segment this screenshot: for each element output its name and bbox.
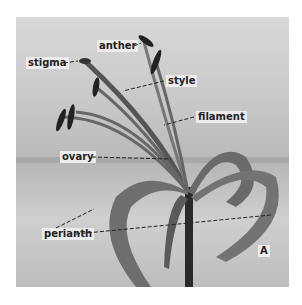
label-filament: filament <box>196 111 247 123</box>
label-style: style <box>166 75 197 87</box>
label-anther: anther <box>97 40 138 52</box>
panel-letter: A <box>258 245 270 257</box>
label-stigma: stigma <box>26 57 69 69</box>
lily-diagram: anther stigma style filament ovary peria… <box>16 17 289 287</box>
label-perianth: perianth <box>42 228 94 240</box>
label-ovary: ovary <box>60 151 96 163</box>
